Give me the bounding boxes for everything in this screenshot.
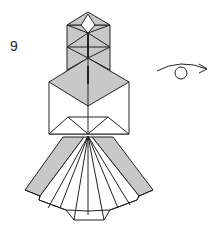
body-square xyxy=(49,58,129,134)
skirt xyxy=(25,136,153,220)
origami-diagram xyxy=(0,0,215,236)
turn-over-icon xyxy=(157,64,207,79)
